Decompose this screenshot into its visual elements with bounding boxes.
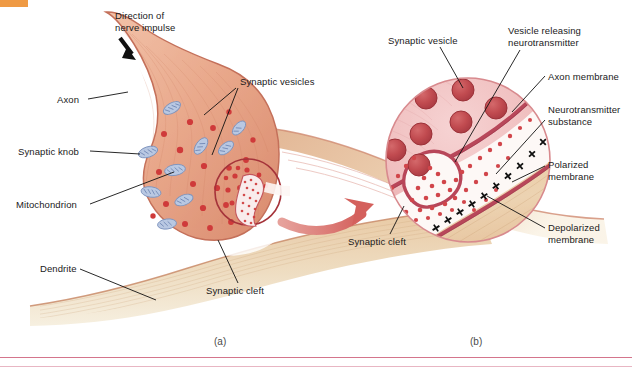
magnified-synapse-circle [352,64,630,314]
footer-rule [0,357,632,358]
label-synaptic-vesicles: Synaptic vesicles [240,76,315,88]
label-synaptic-cleft-b: Synaptic cleft [348,236,406,248]
panel-label-b: (b) [470,336,482,347]
footer-rule-secondary [0,366,632,367]
label-axon-membrane: Axon membrane [548,71,619,83]
label-direction-of-nerve-impulse: Direction of nerve impulse [115,10,175,33]
label-axon: Axon [57,94,79,106]
label-synaptic-vesicle: Synaptic vesicle [388,35,458,47]
label-vesicle-releasing-neurotransmitter: Vesicle releasing neurotransmitter [508,25,581,48]
label-mitochondrion: Mitochondrion [16,199,77,211]
label-synaptic-cleft-a: Synaptic cleft [206,285,264,297]
label-depolarized-membrane: Depolarized membrane [548,222,600,245]
panel-label-a: (a) [214,336,226,347]
synapse-illustration [0,0,632,368]
label-polarized-membrane: Polarized membrane [548,159,594,182]
label-synaptic-knob: Synaptic knob [18,146,79,158]
label-neurotransmitter-substance: Neurotransmitter substance [548,104,620,127]
label-dendrite: Dendrite [40,263,77,275]
